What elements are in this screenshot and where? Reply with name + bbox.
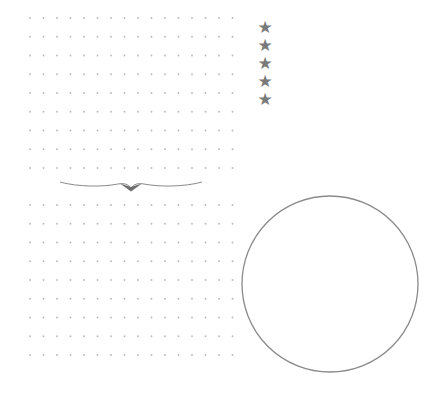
circle-shape	[0, 0, 437, 400]
